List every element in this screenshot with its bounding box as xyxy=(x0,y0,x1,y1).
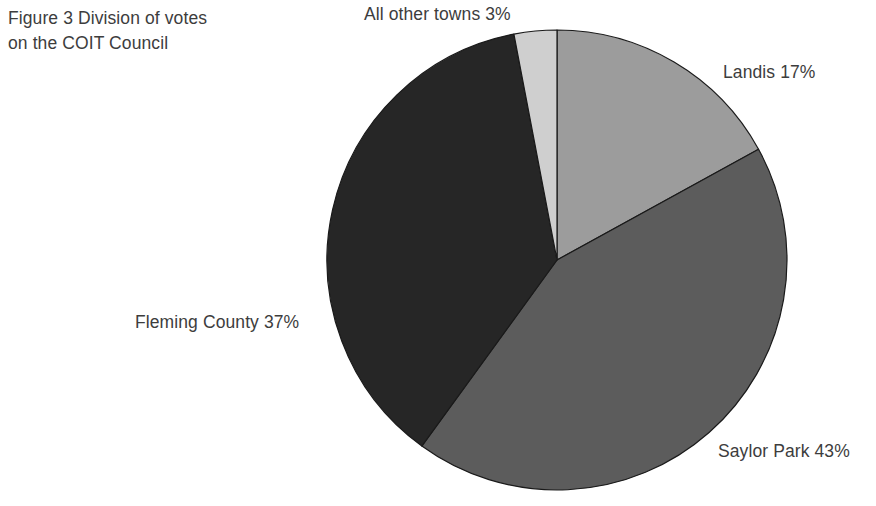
pie-slice-group xyxy=(327,30,787,490)
pie-label-landis: Landis 17% xyxy=(723,61,815,83)
pie-label-all-other-towns: All other towns 3% xyxy=(364,3,511,25)
pie-label-fleming-county: Fleming County 37% xyxy=(135,311,299,333)
pie-label-saylor-park: Saylor Park 43% xyxy=(718,440,850,462)
figure-canvas: Figure 3 Division of votes on the COIT C… xyxy=(0,0,876,506)
